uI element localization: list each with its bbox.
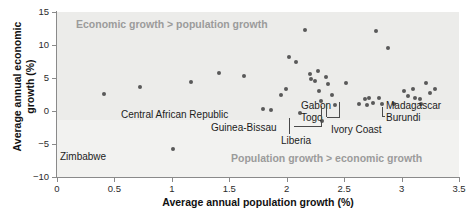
data-point: [287, 55, 291, 59]
data-point: [308, 72, 312, 76]
x-tick-label: 3: [382, 183, 422, 194]
data-point: [324, 75, 328, 79]
leader-guinea-bissau-v: [321, 106, 322, 127]
data-point: [411, 87, 415, 91]
data-point: [330, 93, 334, 97]
data-point: [309, 77, 313, 81]
y-tick-mark: [52, 45, 56, 46]
y-tick-mark: [52, 111, 56, 112]
data-point: [269, 108, 273, 112]
data-point: [294, 60, 298, 64]
x-tick-mark: [287, 178, 288, 182]
x-tick-label: 2: [267, 183, 307, 194]
x-tick-label: 2.5: [324, 183, 364, 194]
y-tick-label: 10: [38, 39, 49, 50]
data-point: [279, 93, 283, 97]
x-tick-label: 1.5: [209, 183, 249, 194]
data-point-ivory-coast: [371, 101, 375, 105]
y-axis-title: Average annual economic growth (%): [11, 2, 36, 172]
x-tick-mark: [229, 178, 230, 182]
y-tick-mark: [52, 12, 56, 13]
x-tick-mark: [114, 178, 115, 182]
y-tick-label: −5: [38, 138, 49, 149]
data-point-central-african-republic: [261, 107, 265, 111]
data-point: [102, 92, 106, 96]
y-tick-label: −10: [33, 171, 49, 182]
y-axis-line: [56, 11, 57, 178]
data-point: [424, 81, 428, 85]
data-point: [326, 82, 330, 86]
y-axis-title-line1: Average annual economic: [11, 2, 24, 172]
leader-guinea-bissau-h: [294, 126, 322, 127]
leader-togo-v: [326, 104, 327, 117]
x-tick-label: 1: [152, 183, 192, 194]
leader-burundi-h: [382, 116, 385, 117]
lower-region-note: Population growth > economic growth: [231, 152, 422, 164]
data-point-zimbabwe: [171, 147, 175, 151]
label-ivory-coast: Ivory Coast: [331, 124, 382, 135]
x-tick-mark: [344, 178, 345, 182]
label-central-african-republic: Central African Republic: [121, 109, 228, 120]
y-axis-title-line2: growth (%): [23, 2, 36, 172]
x-axis-title: Average annual population growth (%): [57, 196, 459, 208]
label-burundi: Burundi: [386, 112, 420, 123]
label-zimbabwe: Zimbabwe: [60, 151, 106, 162]
data-point: [363, 97, 367, 101]
label-liberia: Liberia: [281, 135, 311, 146]
label-guinea-bissau: Guinea-Bissau: [211, 122, 277, 133]
data-point: [303, 28, 307, 32]
y-tick-mark: [52, 78, 56, 79]
upper-region-note: Economic growth > population growth: [76, 18, 268, 30]
y-tick-label: 0: [44, 105, 49, 116]
label-togo: Togo: [301, 112, 323, 123]
leader-liberia-v: [289, 118, 290, 134]
label-madagascar: Madagascar: [386, 100, 441, 111]
x-tick-label: 3.5: [439, 183, 470, 194]
y-tick-label: 15: [38, 6, 49, 17]
x-axis-line: [56, 177, 460, 178]
y-tick-label-wrap: −10: [0, 171, 49, 183]
data-point: [284, 87, 288, 91]
data-point: [433, 87, 437, 91]
y-tick-mark: [52, 177, 56, 178]
x-tick-mark: [402, 178, 403, 182]
data-point: [138, 85, 142, 89]
leader-ivory-coast-v: [339, 102, 340, 118]
x-tick-mark: [57, 178, 58, 182]
x-tick-label: 0.5: [94, 183, 134, 194]
x-tick-mark: [172, 178, 173, 182]
x-tick-mark: [459, 178, 460, 182]
y-tick-label: 5: [44, 72, 49, 83]
data-point-gabon: [333, 103, 337, 107]
data-point: [428, 91, 432, 95]
x-tick-label: 0: [37, 183, 77, 194]
y-tick-mark: [52, 144, 56, 145]
